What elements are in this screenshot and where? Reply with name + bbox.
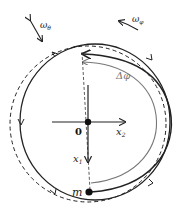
precession-diagram: ωθ ωφ Δφ 0 x2 x1 m bbox=[0, 0, 179, 217]
orbit-arrow-bottomleft bbox=[50, 189, 56, 194]
origin-label: 0 bbox=[75, 126, 82, 137]
omega-phi-label: ωφ bbox=[132, 14, 144, 26]
orbit-arrow-left bbox=[18, 119, 24, 125]
orbit-arrow-bottomright bbox=[148, 179, 153, 186]
delta-phi-label: Δφ bbox=[115, 70, 130, 81]
omega-theta-label: ωθ bbox=[40, 20, 51, 31]
origin-dot bbox=[85, 119, 91, 125]
orbit-arrow-topright bbox=[146, 54, 152, 60]
mass-label: m bbox=[72, 186, 82, 199]
x2-label: x2 bbox=[116, 126, 126, 138]
x1-label: x1 bbox=[73, 153, 82, 165]
mass-dot bbox=[85, 188, 92, 195]
